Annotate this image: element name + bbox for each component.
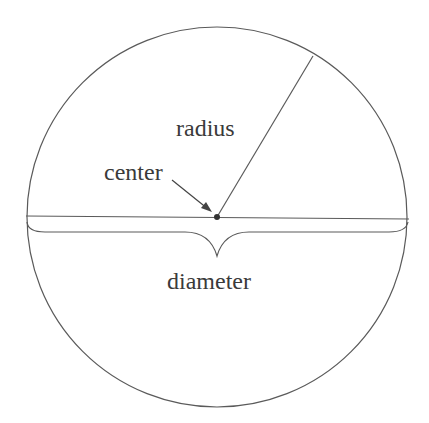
- diameter-brace: [27, 222, 408, 256]
- center-arrow: [172, 180, 212, 212]
- diameter-label: diameter: [167, 268, 251, 294]
- radius-label: radius: [176, 115, 235, 141]
- center-label: center: [104, 159, 163, 185]
- center-point: [214, 214, 220, 220]
- circle-diagram: radius center diameter: [0, 0, 429, 423]
